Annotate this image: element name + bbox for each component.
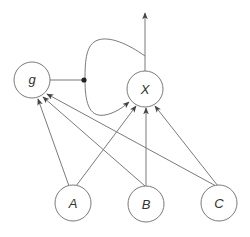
node-b: B <box>128 186 164 222</box>
node-x-label: X <box>140 82 151 97</box>
node-x: X <box>127 71 163 107</box>
edge-a-to-x <box>76 106 136 186</box>
node-c-label: C <box>214 196 224 211</box>
node-g: g <box>14 62 50 98</box>
edge-c-to-x <box>155 106 218 186</box>
node-b-label: B <box>142 197 151 212</box>
edge-b-to-g <box>43 97 145 186</box>
node-a: A <box>55 185 91 221</box>
node-c: C <box>201 185 237 221</box>
edge-a-to-g <box>38 99 69 186</box>
node-a-label: A <box>68 196 78 211</box>
modulator-dot <box>81 77 86 82</box>
node-g-label: g <box>28 72 36 87</box>
edge-c-to-g <box>47 94 216 186</box>
causal-diagram: g X A B C <box>0 0 250 237</box>
